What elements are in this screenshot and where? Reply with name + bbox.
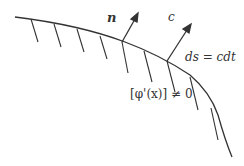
normal-vector-label: n bbox=[107, 11, 116, 24]
arc-length-label: ds = cdt bbox=[185, 51, 236, 63]
jump-condition-label: [φ'(x)] ≠ 0 bbox=[130, 88, 193, 100]
front-diagram: n c ds = cdt [φ'(x)] ≠ 0 bbox=[0, 0, 244, 166]
front-curve bbox=[15, 17, 232, 157]
arrow-n bbox=[122, 13, 138, 42]
front-curve-graphic bbox=[0, 0, 244, 166]
speed-label: c bbox=[168, 11, 175, 23]
